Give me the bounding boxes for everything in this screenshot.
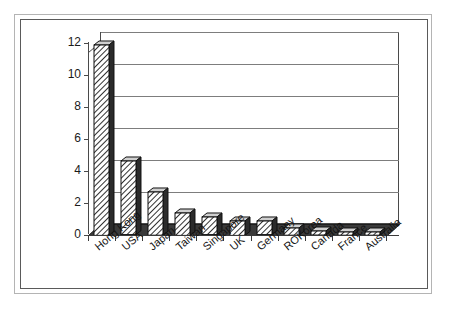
y-axis-tick-label: 8 [74,100,81,112]
gridline [101,160,399,161]
y-axis-tick-label: 4 [74,164,81,176]
gridline [101,96,399,97]
y-axis-tick [84,107,89,108]
screenshot-page: 024681012 Hong KongUSAJapanTaiwanSingapo… [0,0,454,316]
y-axis-tick-label: 10 [68,68,81,80]
y-axis-tick [84,171,89,172]
gridline [101,64,399,65]
y-axis-tick-label: 0 [74,228,81,240]
gridline [101,32,399,33]
gridline [101,192,399,193]
y-axis-tick [84,203,89,204]
x-axis-tick [88,236,89,241]
y-axis-tick [84,75,89,76]
y-axis-tick-label: 2 [74,196,81,208]
gridline [101,128,399,129]
chart-plot-area: 024681012 Hong KongUSAJapanTaiwanSingapo… [21,20,429,290]
y-axis-tick [84,43,89,44]
bar[interactable] [93,40,115,236]
y-axis-tick-label: 6 [74,132,81,144]
x-axis-tick [251,236,252,241]
y-axis-tick-label: 12 [68,36,81,48]
x-axis-category-label: UK [228,234,247,252]
chart-frame: 024681012 Hong KongUSAJapanTaiwanSingapo… [20,19,428,289]
y-axis-tick [84,139,89,140]
